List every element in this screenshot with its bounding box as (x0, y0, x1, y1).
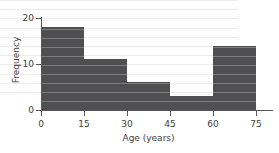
x-axis-tick-label: 45 (155, 119, 185, 129)
y-axis-tick-label: 0 (12, 105, 34, 115)
bar-texture (213, 46, 256, 110)
histogram-bar (41, 27, 84, 110)
x-axis-line (41, 110, 273, 111)
x-axis-tick (213, 111, 214, 116)
bar-texture (84, 59, 127, 110)
y-axis-tick (36, 18, 41, 19)
x-axis-title: Age (years) (41, 133, 256, 143)
gridline (0, 9, 238, 10)
x-axis-tick (256, 111, 257, 116)
x-axis-tick-label: 30 (112, 119, 142, 129)
histogram-chart: 01020 01530456075 Age (years) Frequency (0, 0, 279, 153)
y-axis-line (41, 17, 42, 111)
bar-texture (170, 96, 213, 110)
y-axis-tick (36, 64, 41, 65)
histogram-bar (170, 96, 213, 110)
x-axis-tick-label: 15 (69, 119, 99, 129)
bars-group (41, 18, 256, 110)
x-axis-tick (170, 111, 171, 116)
histogram-bar (213, 46, 256, 110)
bar-texture (127, 82, 170, 110)
plot-area (41, 18, 256, 110)
bar-texture (41, 27, 84, 110)
x-axis-tick-label: 60 (198, 119, 228, 129)
x-axis-tick (127, 111, 128, 116)
gridline (0, 0, 238, 1)
histogram-bar (127, 82, 170, 110)
x-axis-tick-label: 0 (26, 119, 56, 129)
y-axis-title: Frequency (11, 20, 21, 100)
histogram-bar (84, 59, 127, 110)
x-axis-tick-label: 75 (241, 119, 271, 129)
x-axis-tick (84, 111, 85, 116)
x-axis-tick (41, 111, 42, 116)
